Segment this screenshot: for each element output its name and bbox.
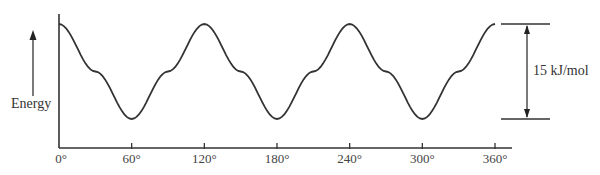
x-tick-label: 60° — [123, 151, 141, 167]
x-tick-label: 240° — [337, 151, 362, 167]
x-tick-label: 360° — [483, 151, 508, 167]
x-tick-label: 180° — [265, 151, 290, 167]
up-arrow-icon — [30, 30, 37, 40]
x-tick-label: 0° — [55, 151, 67, 167]
dimension-up-arrowhead-icon — [524, 25, 530, 34]
barrier-label: 15 kJ/mol — [533, 63, 589, 79]
x-tick-label: 120° — [192, 151, 217, 167]
energy-curve — [59, 24, 495, 119]
dimension-down-arrowhead-icon — [524, 109, 530, 118]
energy-diagram — [0, 0, 600, 175]
x-tick-label: 300° — [410, 151, 435, 167]
y-axis-label: Energy — [11, 96, 51, 112]
